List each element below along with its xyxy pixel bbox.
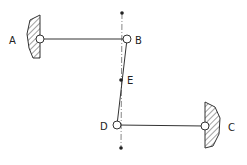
label-d: D xyxy=(100,121,108,132)
pivot-c xyxy=(201,122,209,130)
label-b: B xyxy=(135,35,142,46)
pivot-d xyxy=(113,121,121,129)
link-dc xyxy=(117,125,205,126)
label-a: A xyxy=(9,35,16,46)
top-dot xyxy=(120,11,124,15)
bottom-dot xyxy=(119,146,123,150)
pivot-a xyxy=(36,35,44,43)
pivot-b xyxy=(123,35,131,43)
label-c: C xyxy=(228,122,235,133)
linkage-diagram: A B E D C xyxy=(0,0,247,165)
point-e-dot xyxy=(119,78,123,82)
label-e: E xyxy=(127,75,133,86)
